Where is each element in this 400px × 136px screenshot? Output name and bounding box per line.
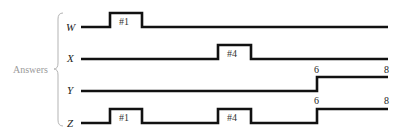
signal-label-y: Y [67,84,75,96]
signal-w: W #1 [66,13,388,33]
step-label-y-end: 8 [384,64,389,75]
signal-label-z: Z [67,117,74,129]
signal-x: X #4 [66,45,388,64]
group-brace [54,13,63,126]
waveform-y [81,77,388,91]
signal-y: Y 6 8 [67,64,389,96]
pulse-label-z-1: #1 [119,112,129,123]
group-label: Answers [13,64,48,75]
pulse-label-w-1: #1 [119,16,129,27]
signal-z: Z #1 #4 6 8 [67,95,389,129]
signal-label-w: W [66,21,76,33]
step-label-z-end: 8 [384,95,389,106]
step-label-y-start: 6 [314,64,319,75]
pulse-label-z-4: #4 [227,112,237,123]
pulse-label-x-4: #4 [227,48,237,59]
timing-diagram: Answers W #1 X #4 Y 6 8 Z #1 #4 6 8 [0,0,400,136]
signal-label-x: X [66,52,75,64]
step-label-z-start: 6 [314,95,319,106]
